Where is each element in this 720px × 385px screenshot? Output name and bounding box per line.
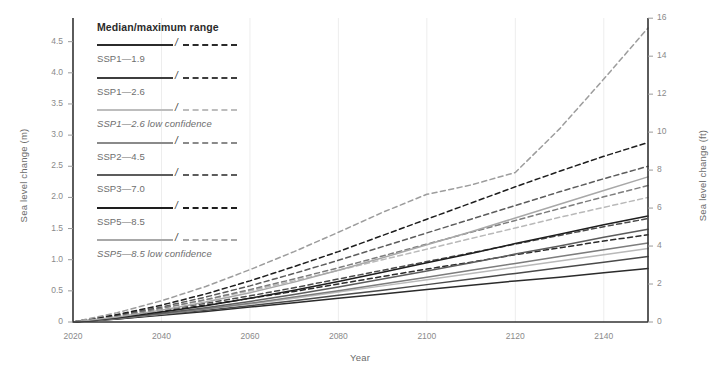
legend-separator: / (175, 102, 178, 113)
legend-swatch: / (97, 203, 225, 213)
legend-separator: / (175, 167, 178, 178)
legend-separator: / (175, 200, 178, 211)
legend-item: /SSP1—2.6 low confidence (97, 105, 287, 129)
legend-swatch: / (97, 235, 225, 245)
y-axis-left-tick-label: 2.0 (33, 191, 63, 201)
y-axis-right-tick-label: 0 (657, 316, 687, 326)
legend-maximum-line (183, 142, 237, 144)
x-axis-tick-label: 2020 (53, 331, 93, 341)
x-axis-tick-label: 2040 (141, 331, 181, 341)
legend-item-label: SSP2—4.5 (97, 151, 287, 162)
legend-item: /SSP5—8.5 low confidence (97, 235, 287, 259)
y-axis-left-tick-label: 0 (33, 316, 63, 326)
legend-swatch: / (97, 170, 225, 180)
legend-swatch: / (97, 138, 225, 148)
legend-median-line (97, 174, 173, 176)
legend-median-line (97, 77, 173, 79)
legend-maximum-line (183, 174, 237, 176)
y-axis-right-tick-label: 16 (657, 12, 687, 22)
legend-item-label: SSP1—2.6 (97, 86, 287, 97)
y-axis-right-tick-label: 10 (657, 126, 687, 136)
y-axis-right-tick-label: 4 (657, 240, 687, 250)
y-axis-left-tick-label: 3.0 (33, 129, 63, 139)
legend-median-line (97, 44, 173, 46)
legend-item: /SSP5—8.5 (97, 203, 287, 227)
y-axis-right-tick-label: 6 (657, 202, 687, 212)
legend-item: /SSP2—4.5 (97, 138, 287, 162)
legend-item-label: SSP1—2.6 low confidence (97, 118, 287, 129)
legend-separator: / (175, 232, 178, 243)
legend-separator: / (175, 37, 178, 48)
y-axis-left-tick-label: 2.5 (33, 160, 63, 170)
y-axis-right-title: Sea level change (ft) (697, 101, 708, 251)
y-axis-right-tick-label: 2 (657, 278, 687, 288)
legend-maximum-line (183, 207, 237, 209)
legend-maximum-line (183, 109, 237, 111)
x-axis-tick-label: 2080 (318, 331, 358, 341)
legend-item: /SSP1—1.9 (97, 40, 287, 64)
x-axis-tick-label: 2060 (230, 331, 270, 341)
legend-swatch: / (97, 40, 225, 50)
legend-title: Median/maximum range (97, 21, 219, 33)
x-axis-tick-label: 2140 (584, 331, 624, 341)
y-axis-right-tick-label: 12 (657, 88, 687, 98)
legend-median-line (97, 142, 173, 144)
y-axis-left-tick-label: 3.5 (33, 98, 63, 108)
legend-maximum-line (183, 44, 237, 46)
legend-maximum-line (183, 239, 237, 241)
legend-median-line (97, 239, 173, 241)
legend-item-label: SSP3—7.0 (97, 183, 287, 194)
legend-item-label: SSP5—8.5 (97, 216, 287, 227)
legend-median-line (97, 109, 173, 111)
legend-swatch: / (97, 73, 225, 83)
y-axis-left-tick-label: 1.5 (33, 223, 63, 233)
x-axis-title: Year (0, 352, 720, 363)
legend-separator: / (175, 135, 178, 146)
legend-item-label: SSP1—1.9 (97, 53, 287, 64)
x-axis-tick-label: 2100 (407, 331, 447, 341)
y-axis-right-tick-label: 8 (657, 164, 687, 174)
x-axis-tick-label: 2120 (495, 331, 535, 341)
legend-maximum-line (183, 77, 237, 79)
y-axis-left-tick-label: 4.5 (33, 36, 63, 46)
legend-item-label: SSP5—8.5 low confidence (97, 248, 287, 259)
legend-item: /SSP3—7.0 (97, 170, 287, 194)
legend-separator: / (175, 70, 178, 81)
y-axis-left-title: Sea level change (m) (18, 101, 29, 251)
y-axis-right-tick-label: 14 (657, 50, 687, 60)
y-axis-left-tick-label: 1.0 (33, 254, 63, 264)
y-axis-left-tick-label: 0.5 (33, 285, 63, 295)
legend-swatch: / (97, 105, 225, 115)
y-axis-left-tick-label: 4.0 (33, 67, 63, 77)
legend-median-line (97, 207, 173, 209)
sea-level-chart: Sea level change (m) Sea level change (f… (0, 0, 720, 385)
legend-item: /SSP1—2.6 (97, 73, 287, 97)
